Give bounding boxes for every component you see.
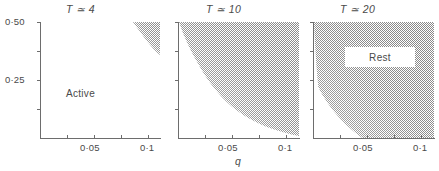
- x-axis-label: q: [235, 155, 241, 167]
- x-tick-005: [94, 135, 95, 139]
- x-tick-0075: [121, 135, 122, 139]
- x-tick-0025-t10: [205, 135, 206, 139]
- shaded-region-t20: [314, 22, 434, 138]
- y-tick-0125-t10: [175, 109, 179, 110]
- shaded-region-t10: [179, 22, 299, 138]
- x-tick-label-01-t20: 0·1: [413, 142, 427, 153]
- x-tick-005-t10: [232, 135, 233, 139]
- panel-t4: T ≃ 4: [0, 0, 163, 171]
- panel-title-t10: T ≃ 10: [206, 3, 241, 15]
- panel-t10: T ≃ 10: [163, 0, 302, 171]
- x-tick-0025-t20: [340, 135, 341, 139]
- y-tick-025: [37, 80, 41, 81]
- x-axis-line-t4: [40, 138, 161, 139]
- phase-diagram-figure: T ≃ 4: [0, 0, 439, 171]
- y-tick-025-t10: [175, 80, 179, 81]
- x-tick-0025: [67, 135, 68, 139]
- x-tick-0075-t20: [394, 135, 395, 139]
- y-tick-0375-t10: [175, 51, 179, 52]
- y-tick-050: [37, 22, 41, 23]
- y-tick-0375: [37, 51, 41, 52]
- y-tick-0125: [37, 109, 41, 110]
- panel-title-t4: T ≃ 4: [66, 3, 95, 15]
- y-tick-050-t20: [310, 22, 314, 23]
- x-tick-0075-t10: [259, 135, 260, 139]
- x-tick-label-005-t10: 0·05: [218, 142, 238, 153]
- x-tick-01-t10: [286, 135, 287, 139]
- x-tick-01: [148, 135, 149, 139]
- x-tick-01-t20: [421, 135, 422, 139]
- plot-area-t20: [314, 22, 434, 138]
- x-tick-label-01: 0·1: [140, 142, 154, 153]
- y-tick-label-050: 0·50: [5, 16, 25, 27]
- plot-area-t4: [41, 22, 160, 138]
- y-tick-050-t10: [175, 22, 179, 23]
- region-label-rest: Rest: [345, 47, 415, 67]
- y-tick-025-t20: [310, 80, 314, 81]
- x-axis-line-t20: [313, 138, 435, 139]
- panel-title-t20: T ≃ 20: [340, 3, 375, 15]
- x-tick-label-01-t10: 0·1: [278, 142, 292, 153]
- y-tick-label-025: 0·25: [5, 74, 25, 85]
- x-tick-005-t20: [367, 135, 368, 139]
- x-axis-line-t10: [178, 138, 300, 139]
- plot-area-t10: [179, 22, 299, 138]
- y-tick-0375-t20: [310, 51, 314, 52]
- x-tick-label-005: 0·05: [80, 142, 100, 153]
- x-tick-label-005-t20: 0·05: [353, 142, 373, 153]
- panel-t20: T ≃ 20: [302, 0, 439, 171]
- region-label-active: Active: [66, 88, 95, 99]
- y-tick-0125-t20: [310, 109, 314, 110]
- shaded-region-t4: [41, 22, 160, 138]
